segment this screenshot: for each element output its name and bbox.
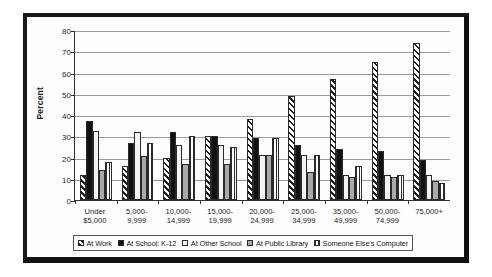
x-tick-mark bbox=[242, 200, 243, 204]
x-tick-mark bbox=[117, 200, 118, 204]
legend-swatch-icon bbox=[182, 240, 188, 246]
y-axis-tick-labels: 01020304050607080 bbox=[49, 31, 71, 201]
y-tick-label: 70 bbox=[62, 48, 71, 57]
bar-group bbox=[367, 31, 409, 200]
bar bbox=[105, 162, 111, 200]
x-tick-label: 50,000- 74,999 bbox=[366, 207, 408, 225]
x-tick-label: 20,000- 24,999 bbox=[241, 207, 283, 225]
legend-label: At School: K-12 bbox=[126, 239, 176, 248]
bar bbox=[272, 138, 278, 200]
x-tick-label: 10,000- 14,999 bbox=[158, 207, 200, 225]
chart-legend: At WorkAt School: K-12At Other SchoolAt … bbox=[73, 235, 413, 251]
y-tick-label: 50 bbox=[62, 90, 71, 99]
legend-item: At Work bbox=[78, 239, 112, 248]
chart-frame: Percent 01020304050607080 Under $5,0005,… bbox=[23, 13, 469, 263]
x-tick-mark bbox=[325, 200, 326, 204]
x-tick-mark bbox=[75, 200, 76, 204]
y-tick-label: 30 bbox=[62, 133, 71, 142]
bar-group bbox=[325, 31, 367, 200]
x-tick-label: 35,000- 49,999 bbox=[325, 207, 367, 225]
x-tick-mark bbox=[200, 200, 201, 204]
legend-label: At Work bbox=[87, 239, 112, 248]
legend-label: At Public Library bbox=[256, 239, 308, 248]
legend-item: Someone Else's Computer bbox=[314, 239, 408, 248]
y-tick-label: 10 bbox=[62, 175, 71, 184]
plot-area bbox=[74, 31, 450, 201]
x-tick-label: 15,000- 19,999 bbox=[199, 207, 241, 225]
legend-swatch-icon bbox=[118, 240, 124, 246]
bar bbox=[230, 147, 236, 200]
bar-groups bbox=[75, 31, 450, 200]
bar-group bbox=[75, 31, 117, 200]
bar-group bbox=[283, 31, 325, 200]
scanned-page: Percent 01020304050607080 Under $5,0005,… bbox=[0, 0, 492, 277]
y-tick-label: 80 bbox=[62, 27, 71, 36]
x-tick-label: Under $5,000 bbox=[74, 207, 116, 225]
bar bbox=[189, 136, 195, 200]
x-axis-tick-labels: Under $5,0005,000- 9,99910,000- 14,99915… bbox=[74, 207, 450, 225]
y-tick-label: 60 bbox=[62, 69, 71, 78]
y-tick-label: 20 bbox=[62, 154, 71, 163]
legend-label: Someone Else's Computer bbox=[323, 239, 408, 248]
legend-item: At School: K-12 bbox=[118, 239, 176, 248]
bar bbox=[314, 155, 320, 200]
legend-swatch-icon bbox=[78, 240, 84, 246]
legend-item: At Other School bbox=[182, 239, 241, 248]
x-tick-label: 5,000- 9,999 bbox=[116, 207, 158, 225]
bar bbox=[147, 143, 153, 200]
bar-group bbox=[408, 31, 450, 200]
bar-group bbox=[200, 31, 242, 200]
x-tick-mark bbox=[367, 200, 368, 204]
legend-swatch-icon bbox=[247, 240, 253, 246]
legend-swatch-icon bbox=[314, 240, 320, 246]
legend-item: At Public Library bbox=[247, 239, 308, 248]
bar bbox=[397, 175, 403, 201]
bar-group bbox=[158, 31, 200, 200]
y-tick-label: 40 bbox=[62, 112, 71, 121]
bar bbox=[355, 166, 361, 200]
x-tick-label: 75,000+ bbox=[408, 207, 450, 225]
bar bbox=[439, 183, 445, 200]
x-tick-mark bbox=[408, 200, 409, 204]
x-tick-mark bbox=[158, 200, 159, 204]
bar-group bbox=[242, 31, 284, 200]
x-tick-mark bbox=[283, 200, 284, 204]
plot-wrapper: Percent 01020304050607080 Under $5,0005,… bbox=[27, 17, 464, 257]
x-tick-label: 25,000- 34,999 bbox=[283, 207, 325, 225]
y-axis-title: Percent bbox=[35, 87, 49, 120]
legend-label: At Other School bbox=[191, 239, 242, 248]
bar-group bbox=[117, 31, 159, 200]
